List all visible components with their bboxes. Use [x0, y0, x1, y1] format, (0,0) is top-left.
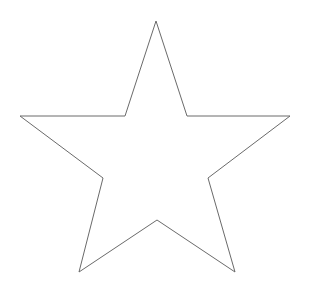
figure-canvas: Five-pointed star outline: [0, 0, 312, 297]
star-figure: Five-pointed star outline: [0, 0, 312, 297]
figure-background: [0, 0, 312, 297]
